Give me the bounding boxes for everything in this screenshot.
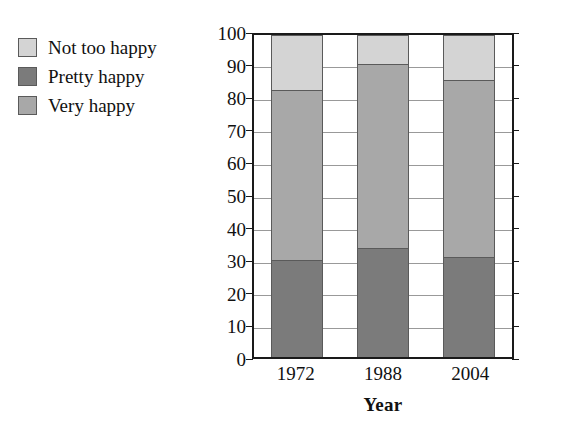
bar-segment-pretty-happy [271, 90, 323, 261]
plot-area [252, 33, 514, 359]
bar-segment-very-happy [357, 248, 409, 357]
bar-segment-very-happy [271, 260, 323, 357]
legend-swatch-not-too-happy [18, 38, 37, 57]
y-tick-label: 80 [227, 89, 246, 108]
chart-legend: Not too happy Pretty happy Very happy [18, 33, 198, 120]
y-tick-label: 60 [227, 154, 246, 173]
y-tick-label: 40 [227, 219, 246, 238]
legend-label-very-happy: Very happy [48, 96, 135, 115]
y-axis-title: Percentage [176, 0, 200, 81]
legend-item-pretty-happy: Pretty happy [18, 62, 198, 91]
y-tick-label: 50 [227, 187, 246, 206]
legend-item-not-too-happy: Not too happy [18, 33, 198, 62]
y-tick-label: 100 [218, 24, 247, 43]
plot-inner [254, 35, 512, 357]
bar-segment-not-too-happy [443, 35, 495, 80]
bar-2004 [443, 35, 495, 357]
bar-segment-pretty-happy [443, 80, 495, 257]
x-axis-title: Year [252, 394, 514, 416]
y-tick-label: 30 [227, 252, 246, 271]
y-axis-tick-labels: 0102030405060708090100 [206, 33, 246, 359]
bar-segment-pretty-happy [357, 64, 409, 248]
bar-segment-not-too-happy [271, 35, 323, 90]
bar-1988 [357, 35, 409, 357]
legend-label-pretty-happy: Pretty happy [48, 67, 145, 86]
y-tick-label: 20 [227, 284, 246, 303]
bars-layer [254, 35, 512, 357]
bar-segment-very-happy [443, 257, 495, 357]
stacked-bar-chart-figure: Not too happy Pretty happy Very happy 01… [0, 0, 563, 427]
y-tick-label: 10 [227, 317, 246, 336]
x-tick-label: 1988 [357, 364, 409, 384]
y-tick-label: 90 [227, 56, 246, 75]
bar-segment-not-too-happy [357, 35, 409, 64]
x-tick-label: 2004 [444, 364, 496, 384]
legend-label-not-too-happy: Not too happy [48, 38, 157, 57]
x-tick-label: 1972 [270, 364, 322, 384]
legend-swatch-very-happy [18, 96, 37, 115]
x-axis-tick-labels: 197219882004 [252, 364, 514, 384]
bar-1972 [271, 35, 323, 357]
y-tick-label: 70 [227, 121, 246, 140]
legend-item-very-happy: Very happy [18, 91, 198, 120]
legend-swatch-pretty-happy [18, 67, 37, 86]
